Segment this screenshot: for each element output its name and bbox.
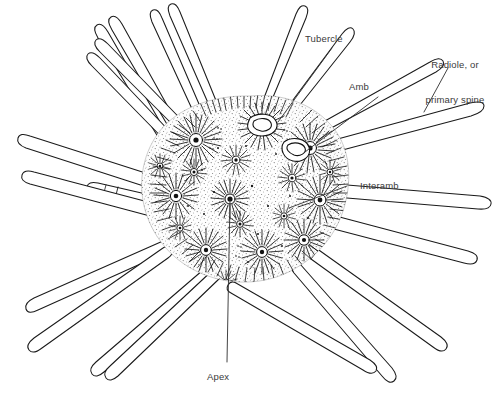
radiole-right-2 <box>325 215 477 264</box>
label-radiole: Radiole, or primary spine <box>414 36 496 128</box>
label-apex: Apex <box>207 371 229 383</box>
label-radiole-line2: primary spine <box>414 94 496 106</box>
radiole-bottom-left-1 <box>91 268 212 376</box>
radiole-right-1 <box>329 184 491 209</box>
label-tubercle: Tubercle <box>305 33 343 45</box>
label-amb: Amb <box>349 81 369 93</box>
sea-urchin-figure: Tubercle Amb Radiole, or primary spine I… <box>0 0 499 395</box>
label-interamb: Interamb <box>360 180 399 192</box>
label-radiole-line1: Radiole, or <box>414 59 496 71</box>
